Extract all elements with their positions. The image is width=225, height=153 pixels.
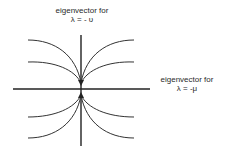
horizontal-eigenvector-label-line2: λ = -μ	[152, 84, 222, 93]
vertical-eigenvector-label-line1: eigenvector for	[50, 6, 114, 15]
phase-portrait-diagram: eigenvector for λ = - υ eigenvector for …	[0, 0, 225, 153]
trajectory-lower-right-inner	[81, 95, 134, 117]
trajectory-upper-left-inner	[28, 62, 81, 83]
vertical-eigenvector-label-line2: λ = - υ	[50, 15, 114, 24]
vertical-eigenvector-label: eigenvector for λ = - υ	[50, 6, 114, 24]
arrowhead-lower-icon	[78, 92, 84, 98]
horizontal-eigenvector-label: eigenvector for λ = -μ	[152, 75, 222, 93]
trajectory-lower-left-inner	[28, 95, 81, 117]
horizontal-eigenvector-label-line1: eigenvector for	[152, 75, 222, 84]
trajectory-upper-right-inner	[81, 62, 134, 83]
arrowhead-upper-icon	[78, 80, 84, 86]
